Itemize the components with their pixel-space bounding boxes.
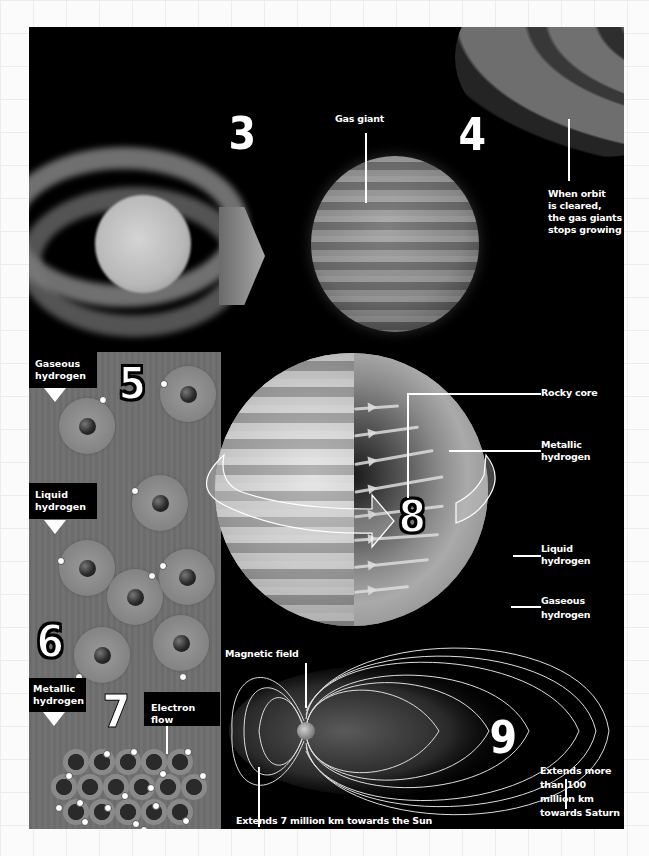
- metallic-hydrogen-leader: [449, 450, 541, 452]
- electron: [159, 562, 167, 570]
- electron-flow-tag: Electron flow: [144, 692, 220, 726]
- hydrogen-atom: [153, 615, 209, 671]
- nucleus: [152, 495, 169, 512]
- stage-number-4: 4: [459, 113, 487, 157]
- progress-arrow-icon: [219, 207, 265, 305]
- down-triangle-icon: [43, 712, 65, 726]
- saturnward-extent-note: Extends more than 100 million km towards…: [540, 764, 620, 820]
- hydrogen-states-panel: Gaseous hydrogen 5 Liquid hydrogen 6 Met…: [29, 352, 221, 829]
- nucleus: [173, 635, 190, 652]
- gaseous-hydrogen-leader: [511, 606, 541, 608]
- jupiter-icon: [297, 722, 315, 740]
- hydrogen-atom: [132, 475, 188, 531]
- electron: [121, 792, 129, 800]
- nucleus: [79, 560, 96, 577]
- electron: [76, 799, 84, 807]
- layer-label-liquid-hydrogen: Liquid hydrogen: [541, 543, 590, 567]
- stage-number-7: 7: [103, 690, 131, 734]
- hydrogen-atom: [160, 366, 216, 422]
- layer-label-metallic-hydrogen: Metallic hydrogen: [541, 439, 590, 463]
- electron: [147, 784, 155, 792]
- electron: [99, 396, 107, 404]
- nucleus: [127, 589, 144, 606]
- electron: [199, 772, 207, 780]
- liquid-hydrogen-leader: [513, 555, 541, 557]
- lattice-atom: [63, 749, 89, 775]
- stage-number-9: 9: [490, 716, 518, 760]
- down-triangle-icon: [44, 520, 66, 534]
- nucleus: [179, 569, 196, 586]
- nucleus: [79, 418, 96, 435]
- electron-flow-leader-line: [166, 726, 168, 754]
- electron: [160, 380, 168, 388]
- protoplanet-core: [95, 195, 191, 293]
- electron: [132, 820, 140, 828]
- lattice-atom: [77, 774, 103, 800]
- electron: [65, 772, 73, 780]
- nucleus: [94, 647, 111, 664]
- electron: [159, 770, 167, 778]
- electron: [81, 818, 89, 826]
- down-triangle-icon: [44, 388, 66, 402]
- electron: [184, 748, 192, 756]
- stage-number-8: 8: [399, 495, 427, 539]
- metallic-hydrogen-tag: Metallic hydrogen: [29, 678, 86, 712]
- sunward-extent-note: Extends 7 million km towards the Sun: [236, 815, 432, 827]
- stage-number-5: 5: [119, 362, 147, 406]
- hydrogen-atom: [159, 549, 215, 605]
- electron: [131, 487, 139, 495]
- nucleus: [180, 386, 197, 403]
- electron: [57, 557, 65, 565]
- rotation-arrow-icon: [194, 447, 524, 557]
- rocky-core-leader-vertical: [407, 393, 409, 498]
- stage-number-6: 6: [37, 620, 65, 664]
- lattice-atom: [89, 799, 115, 825]
- lattice-atom: [51, 774, 77, 800]
- electron: [179, 673, 187, 681]
- electron: [182, 817, 190, 825]
- electron: [140, 826, 148, 829]
- layer-label-gaseous-hydrogen: Gaseous hydrogen: [541, 594, 590, 622]
- electron: [103, 750, 111, 758]
- infographic-panel: 3 When orbit is cleared, the gas giants …: [29, 27, 624, 829]
- gaseous-hydrogen-tag: Gaseous hydrogen: [29, 352, 97, 388]
- electron: [104, 804, 112, 812]
- layer-label-rocky-core: Rocky core: [541, 387, 598, 399]
- gas-giant-label: Gas giant: [335, 113, 384, 125]
- electron: [130, 748, 138, 756]
- hydrogen-atom: [59, 398, 115, 454]
- magnetic-field-leader: [305, 663, 307, 708]
- electron: [148, 572, 156, 580]
- orbit-note: When orbit is cleared, the gas giants st…: [548, 188, 622, 236]
- hydrogen-atom: [59, 540, 115, 596]
- stage-number-3: 3: [229, 112, 257, 156]
- liquid-hydrogen-tag: Liquid hydrogen: [29, 483, 97, 519]
- electron: [152, 802, 160, 810]
- orbit-leader-line: [568, 119, 570, 181]
- magnetic-field-label: Magnetic field: [225, 648, 299, 660]
- lattice-atom: [155, 774, 181, 800]
- gas-giant-leader-line: [365, 133, 367, 203]
- rocky-core-leader-horizontal: [407, 393, 541, 395]
- gas-giant-planet: [311, 156, 479, 332]
- electron: [55, 804, 63, 812]
- protoplanet-disc-illustration: [29, 137, 265, 349]
- lattice-atom: [89, 749, 115, 775]
